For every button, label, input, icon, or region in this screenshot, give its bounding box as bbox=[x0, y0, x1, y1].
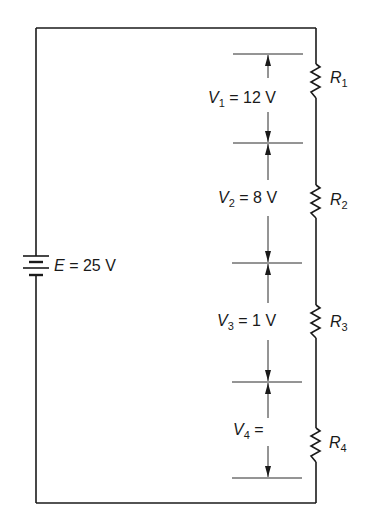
resistor-r4-icon bbox=[311, 428, 320, 462]
v2-label: V2 = 8 V bbox=[218, 190, 277, 209]
r4-label: R4 bbox=[329, 435, 347, 454]
v4-dimension-arrows bbox=[265, 383, 271, 477]
r1-label: R1 bbox=[330, 70, 348, 89]
r3-label: R3 bbox=[330, 314, 348, 333]
source-symbol: E bbox=[54, 257, 65, 274]
source-voltage-label: E = 25 V bbox=[54, 258, 116, 274]
v1-label: V1 = 12 V bbox=[208, 90, 276, 109]
v3-label: V3 = 1 V bbox=[217, 313, 276, 332]
resistor-r3-icon bbox=[311, 305, 320, 338]
v4-label: V4 = bbox=[233, 422, 264, 441]
v4-value: = bbox=[254, 421, 263, 438]
resistor-r2-icon bbox=[311, 185, 320, 218]
source-value: = 25 V bbox=[69, 257, 116, 274]
r2-label: R2 bbox=[330, 192, 348, 211]
v1-value: = 12 V bbox=[229, 89, 276, 106]
v2-value: = 8 V bbox=[239, 189, 277, 206]
resistor-r1-icon bbox=[311, 64, 320, 98]
v3-value: = 1 V bbox=[238, 312, 276, 329]
battery-icon bbox=[23, 256, 49, 275]
